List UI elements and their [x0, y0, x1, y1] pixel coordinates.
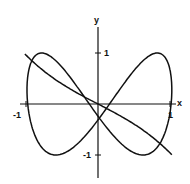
x-axis-label: x — [177, 99, 182, 108]
x-tick-label-neg: -1 — [13, 111, 21, 120]
y-tick-label-neg: -1 — [83, 151, 91, 160]
y-axis-label: y — [94, 16, 99, 25]
y-tick-label-pos: 1 — [104, 49, 109, 58]
x-tick-label-pos: 1 — [168, 111, 173, 120]
plot-area — [0, 0, 190, 184]
